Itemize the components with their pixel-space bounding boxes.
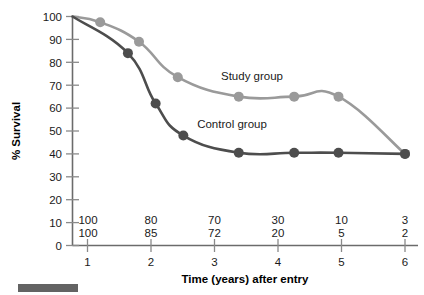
y-tick-label: 100 bbox=[43, 11, 62, 23]
x-tick-label: 3 bbox=[211, 256, 217, 268]
data-point-marker bbox=[334, 92, 344, 102]
x-tick-label: 1 bbox=[84, 256, 90, 268]
chart-svg: 100 90 80 70 60 50 40 30 20 10 0 1 2 3 4 bbox=[0, 0, 424, 295]
y-tick-label: 70 bbox=[49, 80, 62, 92]
y-tick-label: 30 bbox=[49, 171, 62, 183]
data-point-marker bbox=[95, 17, 105, 27]
y-tick-label: 60 bbox=[49, 102, 62, 114]
series-study-group bbox=[73, 17, 411, 159]
series-annotation-control: Control group bbox=[197, 118, 267, 130]
series-line bbox=[73, 17, 406, 154]
data-point-marker bbox=[334, 148, 344, 158]
data-point-marker bbox=[178, 131, 188, 141]
series-layer bbox=[73, 17, 411, 159]
at-risk-value: 85 bbox=[145, 227, 158, 239]
at-risk-value: 10 bbox=[335, 214, 348, 226]
series-annotation-study: Study group bbox=[221, 70, 283, 82]
data-point-marker bbox=[134, 37, 144, 47]
at-risk-value: 100 bbox=[78, 214, 97, 226]
y-tick-label: 0 bbox=[56, 240, 62, 252]
x-tick-labels-group: 1 2 3 4 5 6 bbox=[84, 256, 408, 268]
y-axis-title: % Survival bbox=[10, 102, 22, 160]
x-tick-label: 5 bbox=[338, 256, 344, 268]
survival-chart: 100 90 80 70 60 50 40 30 20 10 0 1 2 3 4 bbox=[0, 0, 424, 295]
y-tick-label: 10 bbox=[49, 217, 62, 229]
series-line bbox=[73, 17, 406, 155]
data-point-marker bbox=[173, 72, 183, 82]
data-point-marker bbox=[234, 92, 244, 102]
at-risk-value: 80 bbox=[145, 214, 158, 226]
data-point-marker bbox=[234, 148, 244, 158]
data-point-marker bbox=[289, 148, 299, 158]
at-risk-value: 72 bbox=[208, 227, 221, 239]
y-tick-label: 40 bbox=[49, 148, 62, 160]
x-axis-title: Time (years) after entry bbox=[182, 273, 310, 285]
y-tick-label: 90 bbox=[49, 34, 62, 46]
at-risk-value: 30 bbox=[272, 214, 285, 226]
at-risk-value: 2 bbox=[402, 227, 408, 239]
at-risk-table: 100 80 70 30 10 3 100 85 72 20 5 2 bbox=[78, 214, 408, 239]
footer-gray-bar bbox=[18, 284, 78, 292]
y-tick-label: 20 bbox=[49, 194, 62, 206]
data-point-marker bbox=[400, 149, 410, 159]
at-risk-value: 70 bbox=[208, 214, 221, 226]
y-tick-label: 50 bbox=[49, 125, 62, 137]
x-tick-label: 4 bbox=[275, 256, 282, 268]
series-control-group bbox=[73, 17, 411, 159]
y-tick-labels-group: 100 90 80 70 60 50 40 30 20 10 0 bbox=[43, 11, 62, 252]
at-risk-value: 20 bbox=[272, 227, 285, 239]
x-tick-label: 6 bbox=[402, 256, 408, 268]
at-risk-value: 5 bbox=[338, 227, 344, 239]
at-risk-value: 3 bbox=[402, 214, 408, 226]
data-point-marker bbox=[123, 48, 133, 58]
y-tick-label: 80 bbox=[49, 57, 62, 69]
data-point-marker bbox=[289, 92, 299, 102]
at-risk-value: 100 bbox=[78, 227, 97, 239]
data-point-marker bbox=[151, 99, 161, 109]
x-tick-label: 2 bbox=[148, 256, 154, 268]
